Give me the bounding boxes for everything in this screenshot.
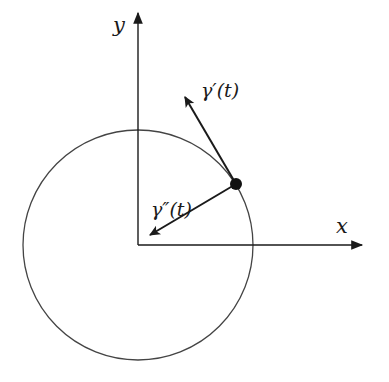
diagram-canvas: y x γ′(t) γ″(t)	[0, 0, 389, 382]
curve-point	[230, 178, 242, 190]
y-axis-label: y	[112, 13, 126, 37]
acceleration-label: γ″(t)	[151, 198, 192, 220]
velocity-vector	[185, 97, 236, 184]
velocity-label: γ′(t)	[201, 79, 239, 101]
x-axis-label: x	[336, 214, 348, 238]
